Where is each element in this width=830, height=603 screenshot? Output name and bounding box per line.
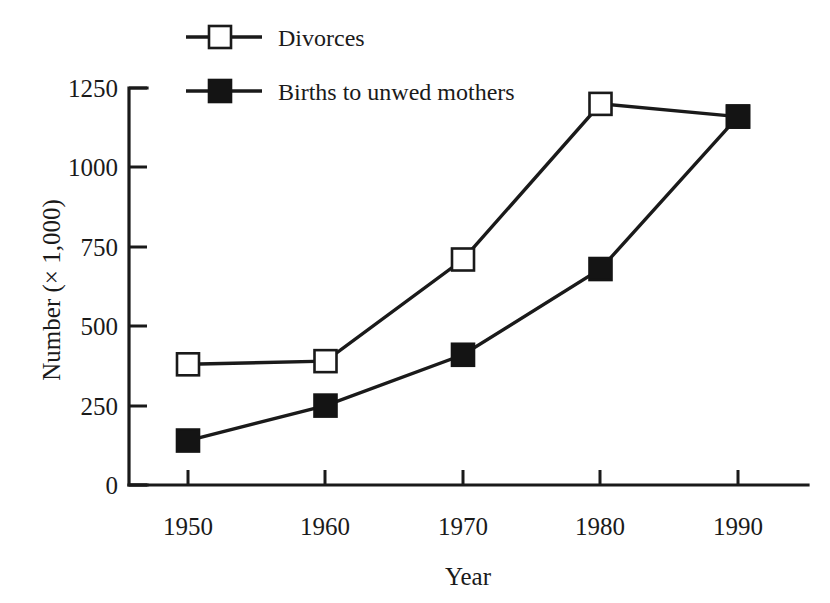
y-axis-tick-labels: 0 250 500 750 1000 1250 xyxy=(68,75,118,499)
x-axis-tick-labels: 1950 1960 1970 1980 1990 xyxy=(163,513,763,540)
legend-marker-open-square xyxy=(209,26,231,48)
data-point-1970[interactable] xyxy=(452,249,474,271)
chart-legend: Divorces Births to unwed mothers xyxy=(186,25,515,105)
x-tick-label-1980: 1980 xyxy=(575,513,625,540)
data-point-1980[interactable] xyxy=(590,93,612,115)
legend-label-divorces: Divorces xyxy=(278,25,365,51)
chart-canvas: Divorces Births to unwed mothers 0 xyxy=(0,0,830,603)
y-axis-spine xyxy=(129,88,147,485)
data-point-1950[interactable] xyxy=(177,353,199,375)
series-births-to-unwed-mothers xyxy=(188,117,738,441)
series-markers xyxy=(177,106,749,452)
y-tick-label-250: 250 xyxy=(81,393,119,420)
series-markers xyxy=(177,93,749,375)
y-tick-label-1250: 1250 xyxy=(68,75,118,102)
y-tick-label-1000: 1000 xyxy=(68,154,118,181)
x-axis-ticks xyxy=(188,470,738,485)
line-chart: Divorces Births to unwed mothers 0 xyxy=(0,0,830,603)
legend-entry-divorces[interactable]: Divorces xyxy=(186,25,365,51)
chart-axes xyxy=(129,88,808,485)
series-layer xyxy=(177,93,749,452)
x-tick-label-1990: 1990 xyxy=(713,513,763,540)
data-point-1970[interactable] xyxy=(452,344,474,366)
y-tick-label-0: 0 xyxy=(106,472,119,499)
series-line xyxy=(188,117,738,441)
x-tick-label-1960: 1960 xyxy=(300,513,350,540)
y-tick-label-500: 500 xyxy=(81,313,119,340)
y-tick-label-750: 750 xyxy=(81,234,119,261)
data-point-1950[interactable] xyxy=(177,430,199,452)
legend-label-births: Births to unwed mothers xyxy=(278,79,515,105)
data-point-1980[interactable] xyxy=(590,258,612,280)
data-point-1960[interactable] xyxy=(315,350,337,372)
legend-entry-births-to-unwed-mothers[interactable]: Births to unwed mothers xyxy=(186,79,515,105)
legend-marker-filled-square xyxy=(209,80,231,102)
y-axis-title: Number (× 1,000) xyxy=(38,199,66,380)
data-point-1990[interactable] xyxy=(727,106,749,128)
y-axis-ticks xyxy=(129,88,147,485)
x-tick-label-1950: 1950 xyxy=(163,513,213,540)
x-tick-label-1970: 1970 xyxy=(438,513,488,540)
series-line xyxy=(188,104,738,364)
data-point-1960[interactable] xyxy=(315,395,337,417)
series-divorces xyxy=(188,104,738,364)
x-axis-title: Year xyxy=(445,563,492,590)
